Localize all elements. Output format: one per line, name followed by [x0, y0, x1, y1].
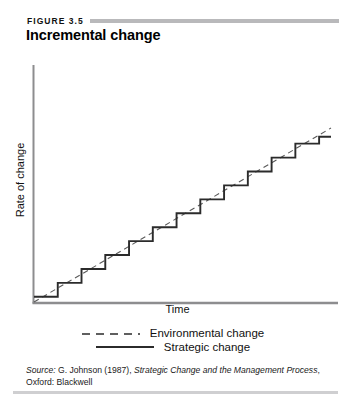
footer-rule [13, 391, 338, 394]
chart-legend: Environmental change Strategic change [0, 328, 345, 353]
page-title: Incremental change [26, 28, 160, 44]
y-axis-label: Rate of change [14, 120, 26, 240]
x-axis-label: Time [0, 303, 345, 315]
legend-item-environmental-change: Environmental change [81, 328, 264, 340]
source-author-year: G. Johnson (1987), [58, 365, 132, 375]
legend-item-strategic-change: Strategic change [95, 342, 250, 354]
legend-label-environmental-change: Environmental change [150, 328, 264, 340]
series-environmental-change [34, 128, 331, 302]
header-rule [90, 19, 339, 23]
dashed-line-swatch-icon [81, 329, 141, 339]
figure-container: FIGURE 3.5 Incremental change Rate of ch… [0, 0, 345, 405]
chart-area: Rate of change Time [0, 56, 345, 318]
source-prefix: Source: [26, 365, 56, 375]
incremental-change-chart [0, 56, 345, 318]
source-work-title: Strategic Change and the Management Proc… [134, 365, 317, 375]
figure-number: FIGURE 3.5 [27, 17, 84, 26]
series-strategic-change [34, 137, 331, 297]
solid-line-swatch-icon [95, 342, 155, 352]
figure-header: FIGURE 3.5 [27, 14, 339, 28]
source-note: Source: G. Johnson (1987), Strategic Cha… [26, 364, 326, 388]
legend-label-strategic-change: Strategic change [164, 342, 250, 354]
